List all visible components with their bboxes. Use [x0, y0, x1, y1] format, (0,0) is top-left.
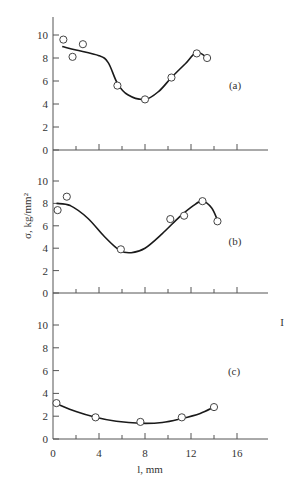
data-point-marker	[168, 74, 175, 81]
data-point-marker	[214, 218, 221, 225]
data-point-marker	[54, 207, 61, 214]
y-tick-label: 2	[43, 410, 49, 422]
data-point-marker	[210, 403, 217, 410]
y-tick-label: 4	[43, 387, 49, 399]
panel-label: (c)	[228, 365, 241, 378]
data-point-marker	[114, 82, 121, 89]
data-point-marker	[141, 96, 148, 103]
data-point-marker	[167, 215, 174, 222]
y-tick-label: 0	[43, 144, 49, 156]
y-tick-label: 8	[43, 197, 49, 209]
y-tick-label: 0	[43, 433, 49, 445]
panel-label: (b)	[229, 235, 242, 248]
panel-c: (c)	[53, 365, 241, 426]
data-point-marker	[60, 36, 67, 43]
data-point-marker	[193, 50, 200, 57]
x-axis-title: l, mm	[137, 463, 163, 475]
side-marker-label: I	[280, 316, 284, 328]
y-tick-label: 10	[37, 29, 49, 41]
data-point-marker	[204, 54, 211, 61]
fit-curve	[57, 201, 218, 253]
data-point-marker	[178, 414, 185, 421]
data-point-marker	[117, 246, 124, 253]
panel-a: (a)	[60, 36, 242, 103]
y-tick-label: 10	[37, 175, 49, 187]
panels-group: (a)(b)(c)	[53, 36, 242, 426]
y-axis-title: σ, kg/mm²	[21, 192, 33, 239]
x-tick-label: 16	[232, 447, 244, 459]
y-tick-label: 0	[43, 287, 49, 299]
y-tick-label: 6	[43, 220, 49, 232]
y-tick-label: 8	[43, 342, 49, 354]
y-tick-label: 4	[43, 98, 49, 110]
data-point-marker	[92, 414, 99, 421]
data-point-marker	[53, 399, 60, 406]
data-point-marker	[69, 53, 76, 60]
data-point-marker	[199, 198, 206, 205]
fit-curve	[62, 47, 207, 100]
chart-figure: 0246810024681002468100481216 (a)(b)(c) l…	[0, 0, 296, 489]
data-point-marker	[137, 418, 144, 425]
data-point-marker	[79, 41, 86, 48]
fit-curve	[57, 404, 215, 424]
y-tick-label: 6	[43, 75, 49, 87]
data-point-marker	[181, 212, 188, 219]
y-tick-label: 4	[43, 242, 49, 254]
panel-label: (a)	[229, 79, 242, 92]
y-tick-label: 2	[43, 265, 49, 277]
y-tick-label: 6	[43, 365, 49, 377]
y-tick-label: 2	[43, 121, 49, 133]
x-tick-label: 0	[50, 447, 56, 459]
x-tick-label: 4	[96, 447, 102, 459]
y-tick-label: 8	[43, 52, 49, 64]
x-tick-label: 8	[142, 447, 148, 459]
y-tick-label: 10	[37, 319, 49, 331]
data-point-marker	[63, 193, 70, 200]
x-tick-label: 12	[186, 447, 197, 459]
panel-b: (b)	[54, 193, 242, 253]
